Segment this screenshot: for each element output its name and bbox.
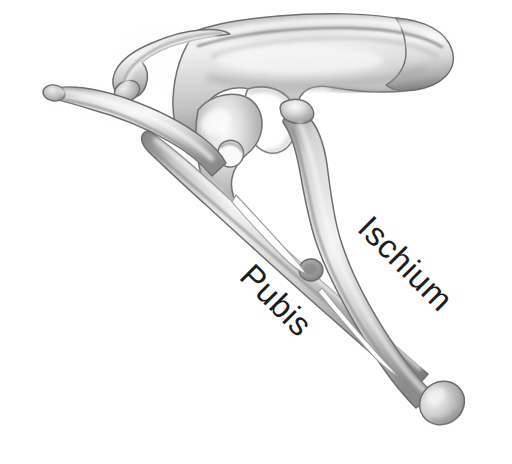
illustration-canvas: Pubis Ischium bbox=[0, 0, 512, 464]
pelvis-illustration: Pubis Ischium bbox=[0, 0, 512, 464]
